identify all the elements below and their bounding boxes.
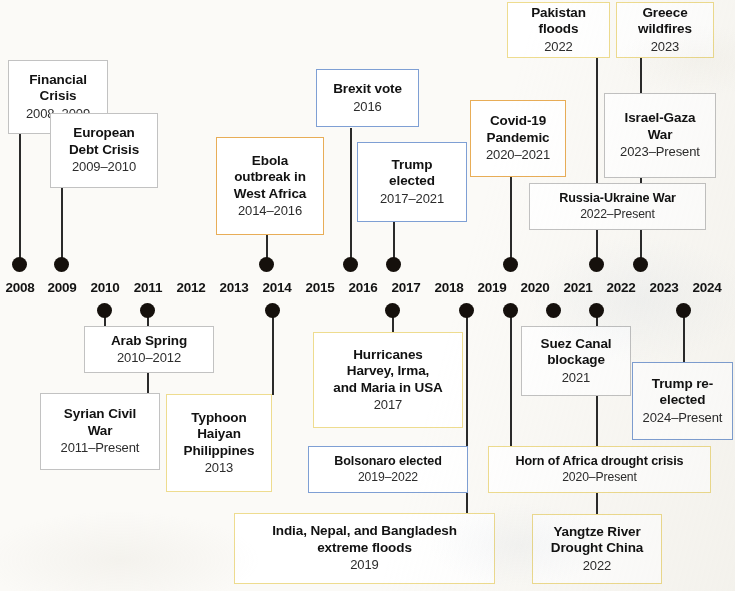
- year-label-2014: 2014: [257, 280, 297, 300]
- event-title: Pakistanfloods: [531, 5, 586, 38]
- event-title: EuropeanDebt Crisis: [69, 125, 139, 158]
- event-title: India, Nepal, and Bangladeshextreme floo…: [272, 523, 457, 556]
- timeline-dot-2020-above[interactable]: [503, 257, 518, 272]
- event-box-ebola[interactable]: Ebolaoutbreak inWest Africa 2014–2016: [216, 137, 324, 235]
- event-box-horn-of-africa[interactable]: Horn of Africa drought crisis 2020–Prese…: [488, 446, 711, 493]
- event-box-typhoon-haiyan[interactable]: TyphoonHaiyanPhilippines 2013: [166, 394, 272, 492]
- event-title: Brexit vote: [333, 81, 402, 97]
- connector-pakistan-floods: [596, 58, 598, 263]
- event-date: 2011–Present: [61, 440, 140, 456]
- event-box-covid-19[interactable]: Covid-19Pandemic 2020–2021: [470, 100, 566, 177]
- connector-european-debt: [61, 187, 63, 263]
- event-date: 2017: [374, 397, 403, 413]
- timeline-dot-2023[interactable]: [633, 257, 648, 272]
- event-date: 2009–2010: [72, 159, 136, 175]
- timeline-axis: 2008 2009 2010 2011 2012 2013 2014 2015 …: [0, 280, 735, 300]
- event-date: 2020–2021: [486, 147, 550, 163]
- event-box-pakistan-floods[interactable]: Pakistanfloods 2022: [507, 2, 610, 58]
- event-title: Trump re-elected: [652, 376, 713, 409]
- connector-arab-to-syrian: [147, 372, 149, 394]
- event-box-european-debt[interactable]: EuropeanDebt Crisis 2009–2010: [50, 113, 158, 188]
- event-date: 2023: [651, 39, 680, 55]
- timeline-dot-2016[interactable]: [343, 257, 358, 272]
- event-title: Syrian CivilWar: [64, 406, 136, 439]
- timeline-dot-2008[interactable]: [12, 257, 27, 272]
- year-label-2009: 2009: [42, 280, 82, 300]
- event-title: Horn of Africa drought crisis: [515, 454, 683, 469]
- year-label-2011: 2011: [128, 280, 168, 300]
- year-label-2024: 2024: [687, 280, 727, 300]
- event-box-arab-spring[interactable]: Arab Spring 2010–2012: [84, 326, 214, 373]
- event-date: 2010–2012: [117, 350, 181, 366]
- event-title: HurricanesHarvey, Irma,and Maria in USA: [333, 347, 442, 396]
- year-label-2021: 2021: [558, 280, 598, 300]
- event-box-yangtze-drought[interactable]: Yangtze RiverDrought China 2022: [532, 514, 662, 584]
- event-box-hurricanes-usa[interactable]: HurricanesHarvey, Irma,and Maria in USA …: [313, 332, 463, 428]
- event-box-russia-ukraine[interactable]: Russia-Ukraine War 2022–Present: [529, 183, 706, 230]
- connector-horn-of-africa: [510, 305, 512, 447]
- year-label-2013: 2013: [214, 280, 254, 300]
- timeline-dot-2011[interactable]: [140, 303, 155, 318]
- timeline-dot-2009[interactable]: [54, 257, 69, 272]
- timeline-figure: FinancialCrisis 2008–2009 EuropeanDebt C…: [0, 0, 735, 591]
- timeline-dot-2017-below[interactable]: [385, 303, 400, 318]
- year-label-2010: 2010: [85, 280, 125, 300]
- event-title: Trumpelected: [389, 157, 435, 190]
- connector-yangtze-drought: [596, 493, 598, 515]
- year-label-2023: 2023: [644, 280, 684, 300]
- year-label-2018: 2018: [429, 280, 469, 300]
- connector-brexit: [350, 128, 352, 263]
- event-box-trump-reelected[interactable]: Trump re-elected 2024–Present: [632, 362, 733, 440]
- event-box-greece-wildfires[interactable]: Greecewildfires 2023: [616, 2, 714, 58]
- event-box-syrian-civil-war[interactable]: Syrian CivilWar 2011–Present: [40, 393, 160, 470]
- event-title: Suez Canalblockage: [540, 336, 611, 369]
- event-title: TyphoonHaiyanPhilippines: [184, 410, 255, 459]
- year-label-2008: 2008: [0, 280, 40, 300]
- timeline-dot-2024[interactable]: [676, 303, 691, 318]
- timeline-dot-2013[interactable]: [265, 303, 280, 318]
- event-date: 2019–2022: [358, 470, 418, 485]
- event-title: Israel-GazaWar: [625, 110, 696, 143]
- event-date: 2014–2016: [238, 203, 302, 219]
- event-title: Covid-19Pandemic: [487, 113, 550, 146]
- event-title: Arab Spring: [111, 333, 187, 349]
- timeline-dot-2022-below[interactable]: [589, 303, 604, 318]
- year-label-2012: 2012: [171, 280, 211, 300]
- event-date: 2020–Present: [562, 470, 637, 485]
- event-date: 2024–Present: [643, 410, 723, 426]
- year-label-2017: 2017: [386, 280, 426, 300]
- timeline-dot-2021[interactable]: [546, 303, 561, 318]
- event-date: 2023–Present: [620, 144, 700, 160]
- connector-typhoon-haiyan: [272, 305, 274, 395]
- event-box-suez-canal[interactable]: Suez Canalblockage 2021: [521, 326, 631, 396]
- event-date: 2022: [583, 558, 612, 574]
- event-date: 2016: [353, 99, 382, 115]
- year-label-2020: 2020: [515, 280, 555, 300]
- timeline-dot-2010[interactable]: [97, 303, 112, 318]
- event-date: 2013: [205, 460, 234, 476]
- event-box-bolsonaro[interactable]: Bolsonaro elected 2019–2022: [308, 446, 468, 493]
- connector-covid-19: [510, 177, 512, 263]
- event-date: 2021: [562, 370, 591, 386]
- connector-bolsonaro: [466, 305, 468, 447]
- timeline-dot-2020-below[interactable]: [503, 303, 518, 318]
- event-title: Greecewildfires: [638, 5, 692, 38]
- event-box-india-nepal-floods[interactable]: India, Nepal, and Bangladeshextreme floo…: [234, 513, 495, 584]
- event-date: 2022–Present: [580, 207, 655, 222]
- event-title: Russia-Ukraine War: [559, 191, 676, 206]
- event-date: 2022: [544, 39, 573, 55]
- year-label-2022: 2022: [601, 280, 641, 300]
- event-box-brexit[interactable]: Brexit vote 2016: [316, 69, 419, 127]
- timeline-dot-2014[interactable]: [259, 257, 274, 272]
- event-title: Yangtze RiverDrought China: [551, 524, 643, 557]
- event-box-trump-elected[interactable]: Trumpelected 2017–2021: [357, 142, 467, 222]
- connector-bolsonaro-to-india: [466, 492, 468, 514]
- event-date: 2017–2021: [380, 191, 444, 207]
- connector-greece-wildfires: [640, 58, 642, 93]
- event-title: Bolsonaro elected: [334, 454, 441, 469]
- year-label-2016: 2016: [343, 280, 383, 300]
- timeline-dot-2019[interactable]: [459, 303, 474, 318]
- event-box-israel-gaza[interactable]: Israel-GazaWar 2023–Present: [604, 93, 716, 178]
- timeline-dot-2017-above[interactable]: [386, 257, 401, 272]
- timeline-dot-2022-above[interactable]: [589, 257, 604, 272]
